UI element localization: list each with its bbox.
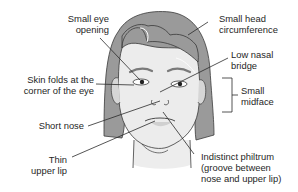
face-shape — [118, 43, 199, 148]
label-thin-upper-lip: Thin upper lip — [20, 154, 67, 176]
label-skin-folds: Skin folds at the corner of the eye — [10, 74, 94, 96]
label-short-nose: Short nose — [20, 120, 84, 131]
label-low-nasal-bridge: Low nasal bridge — [231, 49, 273, 71]
label-small-head-circumference: Small head circumference — [219, 13, 278, 35]
label-small-eye-opening: Small eye opening — [56, 13, 109, 35]
label-indistinct-philtrum: Indistinct philtrum (groove between nose… — [201, 151, 281, 184]
label-small-midface: Small midface — [241, 85, 274, 107]
